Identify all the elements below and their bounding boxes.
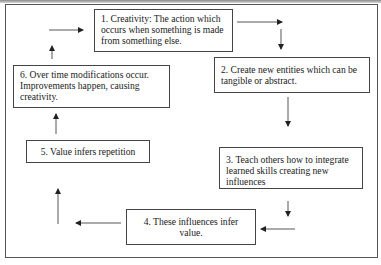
flow-arrows (0, 0, 381, 265)
